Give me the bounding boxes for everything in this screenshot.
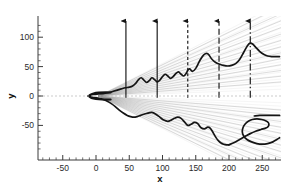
y-tick-label: 100 [20, 32, 34, 42]
x-tick-label: -50 [57, 163, 70, 173]
y-tick-label: -50 [22, 120, 35, 130]
x-tick-label: 200 [222, 163, 236, 173]
x-tick-label: 0 [94, 163, 99, 173]
x-tick-label: 250 [255, 163, 269, 173]
y-axis-title: y [5, 93, 16, 99]
x-tick-label: 100 [155, 163, 169, 173]
y-tick-label: 0 [29, 91, 34, 101]
y-tick-label: 50 [25, 62, 35, 72]
x-tick-label: 50 [125, 163, 135, 173]
flow-field-plot: -50050100150200250-50050100 x y [0, 0, 295, 189]
plot-canvas: -50050100150200250-50050100 x y [0, 0, 295, 189]
lower-wake-tail [254, 115, 279, 116]
x-axis-title: x [157, 173, 163, 184]
x-tick-label: 150 [189, 163, 203, 173]
ray-fan-layer [99, 0, 295, 189]
lower-shear-layer [88, 96, 229, 145]
mach-ray-fine [99, 33, 295, 96]
